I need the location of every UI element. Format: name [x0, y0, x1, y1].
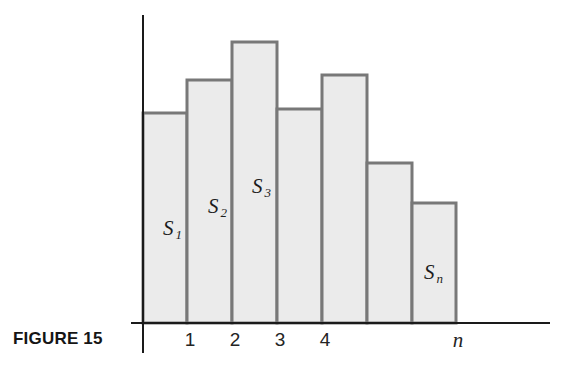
area-label-subscript: n — [435, 271, 444, 286]
area-label-subscript: 1 — [174, 227, 183, 242]
bar-4 — [277, 109, 322, 323]
figure-caption: FIGURE 15 — [13, 329, 103, 349]
area-label-subscript: 2 — [219, 205, 228, 220]
x-tick-label-n: n — [446, 330, 470, 351]
x-tick-label-2: 2 — [223, 330, 247, 349]
x-tick-label-4: 4 — [313, 330, 337, 349]
area-label-symbol: S — [252, 174, 263, 198]
area-label-symbol: S — [163, 216, 174, 240]
area-label-s3: S3 — [252, 176, 271, 199]
area-label-s1: S1 — [163, 218, 182, 241]
area-label-s2: S2 — [208, 196, 227, 219]
bar-5 — [322, 75, 367, 323]
x-tick-label-3: 3 — [268, 330, 292, 349]
figure-15-container: FIGURE 15 1234n S1S2S3Sn — [0, 0, 561, 370]
area-label-symbol: S — [208, 194, 219, 218]
area-label-subscript: 3 — [263, 185, 272, 200]
area-label-sn: Sn — [424, 262, 443, 285]
bars-group — [143, 42, 456, 323]
area-label-symbol: S — [424, 260, 435, 284]
x-tick-label-1: 1 — [178, 330, 202, 349]
histogram-plot — [0, 0, 561, 370]
bar-6 — [367, 163, 412, 323]
